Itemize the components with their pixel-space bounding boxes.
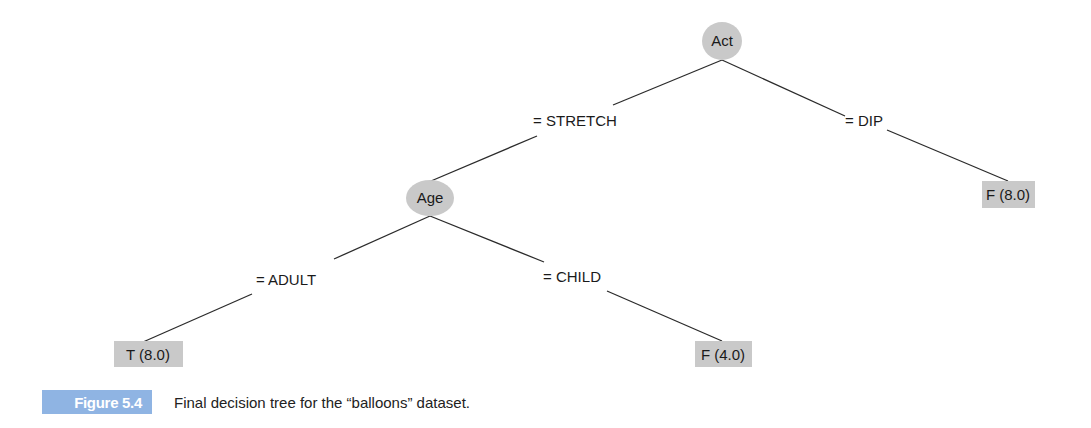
edge-act-dip-lower bbox=[887, 130, 1008, 181]
edge-label-child: = CHILD bbox=[543, 268, 601, 285]
node-age-label: Age bbox=[417, 189, 444, 206]
leaf-adult-true: T (8.0) bbox=[114, 341, 183, 367]
edge-act-dip-upper bbox=[722, 60, 845, 116]
node-act-label: Act bbox=[711, 32, 734, 49]
edge-label-adult: = ADULT bbox=[256, 271, 316, 288]
edge-label-dip: = DIP bbox=[845, 112, 883, 129]
edge-age-child-upper bbox=[430, 216, 544, 262]
node-act: Act bbox=[702, 22, 742, 60]
edge-age-adult-upper bbox=[334, 216, 430, 259]
leaf-dip-false: F (8.0) bbox=[982, 181, 1035, 208]
leaf-child-false: F (4.0) bbox=[695, 341, 752, 367]
figure-label: Figure 5.4 bbox=[42, 390, 152, 414]
edge-age-child-lower bbox=[607, 291, 722, 341]
edge-age-adult-lower bbox=[143, 294, 252, 342]
leaf-dip-false-label: F (8.0) bbox=[986, 186, 1030, 203]
edge-act-stretch-upper bbox=[613, 60, 722, 105]
leaf-adult-true-label: T (8.0) bbox=[126, 346, 170, 363]
figure-caption: Figure 5.4 Final decision tree for the “… bbox=[42, 390, 470, 414]
decision-tree-diagram: Act Age = STRETCH = DIP = ADULT = CHILD … bbox=[0, 0, 1091, 428]
node-age: Age bbox=[406, 180, 454, 216]
edge-act-stretch-lower bbox=[431, 136, 537, 181]
leaf-child-false-label: F (4.0) bbox=[701, 346, 745, 363]
figure-caption-text: Final decision tree for the “balloons” d… bbox=[174, 394, 470, 411]
edge-label-stretch: = STRETCH bbox=[533, 112, 617, 129]
